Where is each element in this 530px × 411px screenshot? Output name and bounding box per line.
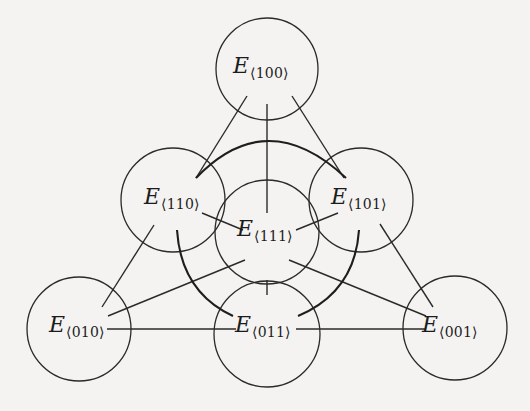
node-label-110: E⟨110⟩: [144, 186, 200, 208]
edge-111-001: [289, 260, 426, 316]
node-symbol: E: [237, 216, 253, 241]
node-symbol: E: [235, 312, 251, 337]
node-subscript: ⟨011⟩: [252, 324, 291, 340]
edge-100-101: [292, 96, 344, 178]
edge-lines: [102, 96, 433, 329]
edge-101-001: [380, 224, 433, 307]
node-symbol: E: [49, 312, 65, 337]
node-subscript: ⟨010⟩: [66, 324, 105, 340]
edge-111-010: [108, 260, 245, 316]
node-label-010: E⟨010⟩: [49, 314, 105, 336]
edge-100-110: [196, 96, 247, 178]
node-subscript: ⟨111⟩: [254, 228, 293, 244]
arc-101-011: [298, 230, 359, 316]
node-symbol: E: [233, 53, 249, 78]
node-label-001: E⟨001⟩: [422, 314, 478, 336]
node-subscript: ⟨110⟩: [161, 196, 200, 212]
node-symbol: E: [331, 184, 347, 209]
node-symbol: E: [422, 312, 438, 337]
node-subscript: ⟨101⟩: [348, 196, 387, 212]
edge-110-010: [102, 225, 154, 307]
node-subscript: ⟨001⟩: [439, 324, 478, 340]
node-symbol: E: [144, 184, 160, 209]
node-label-111: E⟨111⟩: [237, 218, 293, 240]
node-subscript: ⟨100⟩: [250, 65, 289, 81]
node-label-100: E⟨100⟩: [233, 55, 289, 77]
node-label-101: E⟨101⟩: [331, 186, 387, 208]
node-label-011: E⟨011⟩: [235, 314, 291, 336]
